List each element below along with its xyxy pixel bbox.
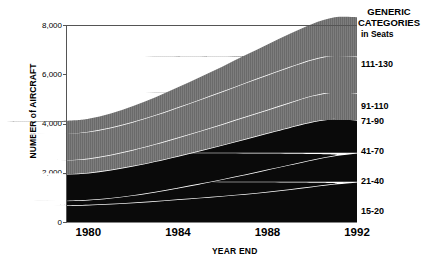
legend-entry-71-90: 71-90 [361, 116, 384, 126]
legend-entry-41-70: 41-70 [361, 146, 384, 156]
legend-title-line1: GENERIC [367, 6, 410, 17]
legend-subtitle: in Seats [361, 29, 394, 39]
legend-title: GENERIC CATEGORIES [357, 6, 421, 28]
x-tick-label-1984: 1984 [148, 226, 208, 238]
legend: GENERIC CATEGORIES in Seats 111-13091-11… [358, 0, 423, 271]
stacked-area-chart: NUMBER of AIRCRAFT 02,0004,0006,0008,000… [0, 0, 423, 271]
legend-entry-21-40: 21-40 [361, 176, 384, 186]
legend-entry-111-130: 111-130 [361, 59, 393, 69]
legend-entry-91-110: 91-110 [361, 101, 389, 111]
x-tick-label-1988: 1988 [237, 226, 297, 238]
x-tick-label-1980: 1980 [58, 226, 118, 238]
legend-title-line2: CATEGORIES [358, 17, 420, 28]
legend-entry-15-20: 15-20 [361, 206, 384, 216]
x-axis-title: YEAR END [212, 246, 258, 256]
